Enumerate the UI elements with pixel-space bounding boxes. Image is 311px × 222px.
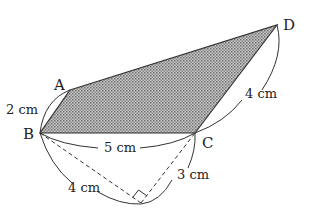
vertex-label-c: C bbox=[202, 134, 213, 152]
vertex-label-a: A bbox=[53, 76, 65, 94]
arc-bc-left bbox=[40, 133, 98, 148]
vertex-label-b: B bbox=[23, 125, 34, 143]
right-angle-marker bbox=[133, 190, 147, 197]
shaded-quadrilateral-abcd bbox=[40, 25, 277, 133]
dimension-label-bc: 5 cm bbox=[104, 140, 136, 155]
dimension-label-ec: 3 cm bbox=[177, 167, 209, 182]
arc-bc-right bbox=[140, 133, 195, 148]
geometry-diagram: A B C D 2 cm 5 cm 4 cm 4 cm 3 cm bbox=[0, 0, 311, 222]
dimension-label-ab: 2 cm bbox=[6, 102, 38, 117]
dimension-label-be: 4 cm bbox=[68, 180, 100, 195]
vertex-label-d: D bbox=[283, 16, 295, 34]
dimension-label-cd: 4 cm bbox=[245, 86, 277, 101]
arc-ec-top bbox=[188, 133, 195, 168]
